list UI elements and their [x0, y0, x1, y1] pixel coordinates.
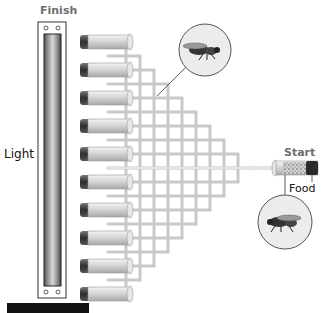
light-source — [38, 22, 66, 298]
collection-tube-9 — [80, 258, 133, 274]
finish-label: Finish — [40, 4, 77, 17]
start-tube — [272, 160, 318, 182]
caption-bar — [7, 303, 89, 313]
collection-tube-10 — [80, 286, 133, 302]
light-label: Light — [4, 147, 34, 161]
collection-tube-2 — [80, 62, 133, 78]
fly-inset-maze — [157, 24, 231, 96]
collection-tube-7 — [80, 202, 133, 218]
collection-tube-4 — [80, 118, 133, 134]
collection-tube-5 — [80, 146, 133, 162]
collection-tube-6 — [80, 174, 133, 190]
start-label: Start — [284, 146, 315, 159]
food-label: Food — [289, 182, 315, 195]
collection-tube-3 — [80, 90, 133, 106]
maze-diagram — [0, 0, 331, 313]
collection-tube-8 — [80, 230, 133, 246]
collection-tube-1 — [80, 34, 133, 50]
